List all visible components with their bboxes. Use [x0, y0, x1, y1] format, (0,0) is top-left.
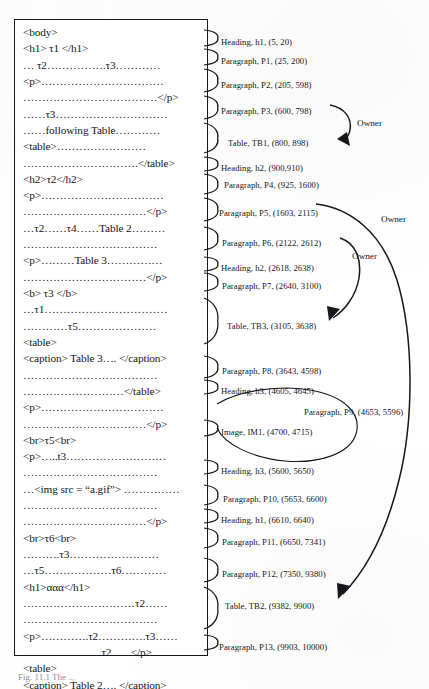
code-line: ……………………………… [23, 236, 204, 252]
code-line: ……………………………… [23, 611, 204, 627]
annot-heading-h3-1: Heading, h3, (4605, 4645) [221, 386, 314, 396]
code-line: <table> [23, 334, 204, 350]
code-line: <h1> τ1 </h1> [23, 40, 204, 56]
paragraph-p9-enclosure [217, 388, 357, 461]
code-line: ……………………………</p> [23, 203, 204, 219]
code-line: <caption> Table 3…. </caption> [23, 350, 204, 366]
annot-paragraph-p11: Paragraph, P11, (6650, 7341) [222, 537, 325, 547]
annot-heading-h3-2: Heading, h3, (5600, 5650) [221, 466, 314, 476]
code-line: ……following Table………… [23, 122, 204, 138]
code-line: …<img src = “a.gif”> …………… [23, 481, 204, 497]
code-line: …τ1…………………………… [23, 301, 204, 317]
code-line: <br>τ6<br> [23, 530, 204, 546]
owner-arrow-p3-tb1-label: Owner [357, 118, 382, 128]
owner-arrow-p6-tb3-label: Owner [352, 251, 377, 261]
code-line: ………………………………</p> [23, 89, 204, 105]
code-line: ……τ3………………………… [23, 106, 204, 122]
code-line: ……………………………</p> [23, 416, 204, 432]
html-source-listing-box: <body><h1> τ1 </h1>… τ2…………….τ3…………<p>……… [14, 19, 208, 656]
code-line: <body> [23, 24, 204, 40]
code-line: ……………………………</p> [23, 269, 204, 285]
code-line: …τ5………………τ6………… [23, 562, 204, 578]
code-line: <p>…………………………… [23, 399, 204, 415]
code-line: ……………………………… [23, 497, 204, 513]
owner-arrow-p5-tb2-label: Owner [381, 214, 406, 224]
code-line: … τ2…………….τ3………… [23, 57, 204, 73]
annot-paragraph-p8: Paragraph, P8, (3643, 4598) [222, 366, 321, 376]
html-source-lines: <body><h1> τ1 </h1>… τ2…………….τ3…………<p>……… [23, 24, 204, 689]
code-line: <p>………Table 3…………… [23, 252, 204, 268]
code-line: ……….τ3…………………… [23, 546, 204, 562]
annot-paragraph-p12: Paragraph, P12, (7350, 9380) [222, 569, 326, 579]
code-line: <p>…..t3……………………… [23, 448, 204, 464]
code-line: …………………………τ2…… [23, 595, 204, 611]
annot-paragraph-p6: Paragraph, P6, (2122, 2612) [222, 238, 321, 248]
annot-paragraph-p2: Paragraph, P2, (205, 598) [221, 80, 312, 90]
annot-table-tb2: Table, TB2, (9382, 9900) [225, 601, 314, 611]
annot-paragraph-p3: Paragraph, P3, (600, 798) [221, 106, 312, 116]
code-line: ……………………………… [23, 464, 204, 480]
annot-image-im1: Image, IM1, (4700, 4715) [221, 427, 312, 437]
annot-paragraph-p7: Paragraph, P7, (2640, 3100) [222, 281, 321, 291]
annot-paragraph-p9: Paragraph, P9, (4653, 5596) [304, 407, 403, 417]
code-line: <table>…………………… [23, 138, 204, 154]
code-line: ………………………</table> [23, 383, 204, 399]
annot-paragraph-p13: Paragraph, P13, (9903, 10000) [219, 642, 327, 652]
annot-table-tb3: Table, TB3, (3105, 3638) [227, 321, 316, 331]
annot-paragraph-p4: Paragraph, P4, (925, 1600) [224, 180, 319, 190]
code-line: ………………………….</table> [23, 155, 204, 171]
code-line: <br>τ5<br> [23, 432, 204, 448]
code-line: <b> τ3 </b> [23, 285, 204, 301]
annot-table-tb1: Table, TB1, (800, 898) [228, 138, 308, 148]
html-structure-figure: <body><h1> τ1 </h1>… τ2…………….τ3…………<p>……… [0, 0, 429, 689]
owner-arrow-p5-tb2-graphic [316, 204, 410, 599]
annot-heading-h2-1: Heading, h2, (900,910) [221, 163, 303, 173]
code-line: <h1>ααα</h1> [23, 579, 204, 595]
code-line: ……………………………… [23, 367, 204, 383]
annot-heading-h1-2: Heading, h1, (6610, 6640) [221, 515, 314, 525]
code-line: <p>………….τ2………….τ3…… [23, 628, 204, 644]
code-line: <p>…………………………… [23, 73, 204, 89]
code-line: ……………………………</p> [23, 513, 204, 529]
code-line: …………………τ2 …..</p> [23, 644, 204, 660]
annot-heading-h1-1: Heading, h1, (5, 20) [221, 37, 292, 47]
code-line: <p>…………………………… [23, 187, 204, 203]
annot-paragraph-p5: Paragraph, P5, (1603, 2115) [219, 208, 318, 218]
code-line: …τ2……τ4……Table 2……… [23, 220, 204, 236]
code-line: …………τ5………………… [23, 318, 204, 334]
owner-arrow-p3-tb1-graphic [330, 105, 350, 146]
code-line: <h2>τ2</h2> [23, 171, 204, 187]
annot-paragraph-p10: Paragraph, P10, (5653, 6600) [223, 494, 327, 504]
figure-caption: Fig. 11.1 The ... [18, 672, 75, 682]
annot-paragraph-p1: Paragraph, P1, (25, 200) [221, 56, 307, 66]
annot-heading-h2-2: Heading, h2, (2618, 2638) [221, 263, 314, 273]
